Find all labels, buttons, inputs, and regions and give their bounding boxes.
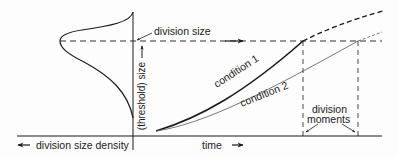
condition-1-extension [303,11,383,41]
division-moment-pointer-left-icon [306,124,318,132]
division-size-density-label: division size density [36,140,129,151]
division-size-pointer-icon [137,33,152,40]
division-size-label: division size [154,26,211,37]
division-moments-label-line2: moments [307,114,350,125]
condition-2-extension [358,32,382,41]
cell-division-diagram: division size (threshold) size condition… [0,0,398,158]
threshold-size-label: (threshold) size [137,62,147,130]
division-size-density-curve [60,12,133,118]
division-moment-pointer-right-icon [342,124,355,132]
time-label: time [202,140,222,151]
